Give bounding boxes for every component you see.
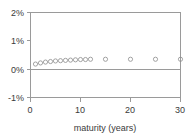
data-point <box>153 57 157 61</box>
data-point <box>53 59 57 63</box>
y-tick-label-2: 2% <box>11 8 24 18</box>
data-point <box>78 57 82 61</box>
data-point <box>43 60 47 64</box>
x-axis-ticks <box>31 98 181 102</box>
data-point <box>128 57 132 61</box>
y-tick-label-0: 0% <box>11 65 24 75</box>
data-point <box>83 57 87 61</box>
y-axis-tick-labels: 2% 1% 0% -1% <box>8 8 24 103</box>
x-tick-label-10: 10 <box>75 105 85 115</box>
data-point <box>88 57 92 61</box>
scatter-chart: 2% 1% 0% -1% 0 10 20 30 maturity (years) <box>0 0 192 139</box>
data-point <box>68 58 72 62</box>
data-point-group <box>33 57 182 66</box>
x-tick-label-0: 0 <box>27 105 32 115</box>
x-axis-title: maturity (years) <box>74 123 137 133</box>
data-point <box>38 61 42 65</box>
y-tick-label-neg1: -1% <box>8 93 24 103</box>
chart-figure: 2% 1% 0% -1% 0 10 20 30 maturity (years) <box>0 0 192 139</box>
y-tick-label-1: 1% <box>11 36 24 46</box>
x-tick-label-30: 30 <box>175 105 185 115</box>
data-point <box>73 58 77 62</box>
y-axis-ticks <box>27 13 31 98</box>
x-axis-tick-labels: 0 10 20 30 <box>27 105 185 115</box>
plot-frame <box>31 13 181 98</box>
data-point <box>103 57 107 61</box>
x-tick-label-20: 20 <box>125 105 135 115</box>
data-point <box>58 59 62 63</box>
data-point <box>33 62 37 66</box>
data-point <box>48 59 52 63</box>
data-point <box>63 58 67 62</box>
